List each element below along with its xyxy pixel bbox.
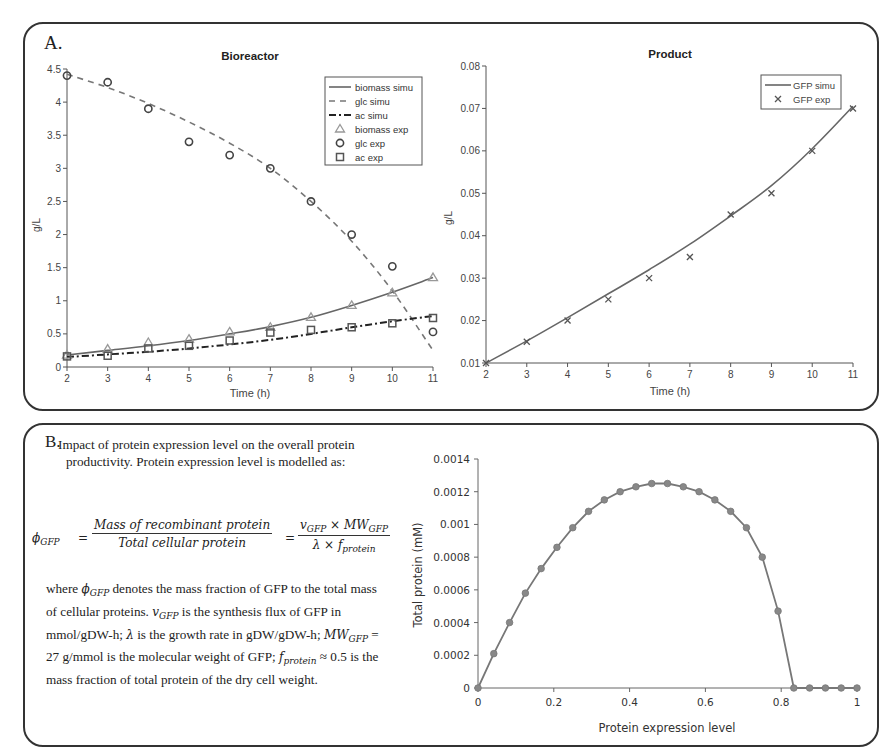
x-tick-label: 5 — [606, 369, 612, 380]
equation: ϕGFP = Mass of recombinant protein Total… — [32, 518, 402, 562]
point-total-protein — [775, 608, 782, 615]
point-total-protein — [759, 554, 766, 561]
x-tick-label: 0.4 — [621, 696, 638, 708]
point-total-protein — [506, 619, 513, 626]
x-tick-label: 4 — [146, 373, 152, 384]
x-tick-label: 6 — [227, 373, 233, 384]
x-tick-label: 5 — [186, 373, 192, 384]
y-tick-label: 0 — [463, 682, 470, 694]
point-biomass-exp — [429, 273, 438, 281]
point-glc-exp — [104, 79, 111, 86]
eq-lhs: ϕGFP — [32, 531, 60, 547]
y-tick-label: 4 — [55, 97, 61, 108]
eq-fraction-1: Mass of recombinant protein Total cellul… — [92, 518, 272, 550]
bioreactor-xlabel: Time (h) — [230, 387, 271, 399]
point-glc-exp — [185, 138, 192, 145]
legend-label: ac exp — [355, 152, 383, 163]
x-tick-label: 11 — [428, 373, 439, 384]
y-tick-label: 3.5 — [47, 130, 61, 141]
x-tick-label: 1 — [854, 696, 861, 708]
point-total-protein — [838, 685, 845, 692]
y-tick-label: 0.0012 — [433, 486, 470, 498]
point-total-protein — [601, 497, 608, 504]
x-tick-label: 7 — [268, 373, 274, 384]
y-tick-label: 1.5 — [47, 262, 61, 273]
point-total-protein — [854, 685, 861, 692]
y-tick-label: 0.08 — [461, 61, 481, 72]
x-tick-label: 6 — [646, 369, 652, 380]
point-GFP-exp — [687, 254, 693, 260]
series-ac-simu — [67, 316, 433, 357]
y-tick-label: 4.5 — [47, 64, 61, 75]
y-tick-label: 0.06 — [461, 145, 481, 156]
y-tick-label: 0.07 — [461, 103, 481, 114]
point-total-protein — [475, 685, 482, 692]
point-ac-exp — [308, 326, 315, 333]
y-tick-label: 2 — [55, 229, 61, 240]
x-tick-label: 8 — [308, 373, 314, 384]
point-total-protein — [633, 484, 640, 491]
x-tick-label: 11 — [848, 369, 859, 380]
x-tick-label: 0.8 — [773, 696, 790, 708]
x-tick-label: 2 — [64, 373, 70, 384]
y-tick-label: 1 — [55, 295, 61, 306]
legend-label: biomass exp — [355, 124, 408, 135]
y-tick-label: 0.02 — [461, 315, 481, 326]
panel-b-ylabel: Total protein (mM) — [411, 522, 425, 628]
y-tick-label: 0.0014 — [433, 453, 470, 465]
panel-b-description: where ϕGFP denotes the mass fraction of … — [46, 580, 381, 689]
point-glc-exp — [226, 151, 233, 158]
y-tick-label: 0.5 — [47, 328, 61, 339]
x-tick-label: 3 — [524, 369, 530, 380]
x-tick-label: 8 — [728, 369, 734, 380]
y-tick-label: 0.01 — [461, 358, 481, 369]
product-ylabel: g/L — [443, 211, 454, 225]
x-tick-label: 10 — [387, 373, 399, 384]
point-GFP-exp — [768, 190, 774, 196]
point-total-protein — [585, 508, 592, 515]
point-total-protein — [712, 497, 719, 504]
point-glc-exp — [429, 328, 436, 335]
x-tick-label: 10 — [807, 369, 819, 380]
y-tick-label: 0 — [55, 362, 61, 373]
point-GFP-exp — [605, 296, 611, 302]
y-tick-label: 0.04 — [461, 230, 481, 241]
eq-frac2-den: λ × fprotein — [298, 536, 390, 554]
product-xlabel: Time (h) — [650, 385, 691, 397]
y-tick-label: 0.05 — [461, 188, 481, 199]
bioreactor-title: Bioreactor — [221, 50, 279, 62]
point-total-protein — [727, 508, 734, 515]
product-title: Product — [648, 48, 692, 60]
x-tick-label: 9 — [769, 369, 775, 380]
x-tick-label: 0.6 — [697, 696, 714, 708]
legend-label: ac simu — [355, 110, 388, 121]
legend-label: glc simu — [355, 96, 390, 107]
x-tick-label: 7 — [687, 369, 693, 380]
point-glc-exp — [348, 231, 355, 238]
point-total-protein — [522, 590, 529, 597]
series-biomass-simu — [67, 278, 433, 355]
point-ac-exp — [226, 337, 233, 344]
x-tick-label: 3 — [105, 373, 111, 384]
y-tick-label: 0.0006 — [433, 584, 470, 596]
point-total-protein — [806, 685, 813, 692]
point-total-protein — [791, 685, 798, 692]
eq-fraction-2: vGFP × MWGFP λ × fprotein — [298, 518, 390, 555]
legend-label: glc exp — [355, 138, 385, 149]
point-total-protein — [822, 685, 829, 692]
y-tick-label: 0.0004 — [433, 617, 470, 629]
point-GFP-exp — [646, 275, 652, 281]
point-total-protein — [680, 484, 687, 491]
point-total-protein — [664, 480, 671, 487]
point-total-protein — [538, 565, 545, 572]
legend-label: GFP simu — [793, 80, 835, 91]
point-total-protein — [743, 524, 750, 531]
point-glc-exp — [389, 263, 396, 270]
point-total-protein — [554, 544, 561, 551]
point-total-protein — [696, 488, 703, 495]
eq-frac2-num: vGFP × MWGFP — [298, 518, 390, 536]
bioreactor-ylabel: g/L — [31, 218, 42, 232]
point-ac-exp — [104, 352, 111, 359]
x-tick-label: 9 — [349, 373, 355, 384]
x-tick-label: 0.2 — [545, 696, 562, 708]
